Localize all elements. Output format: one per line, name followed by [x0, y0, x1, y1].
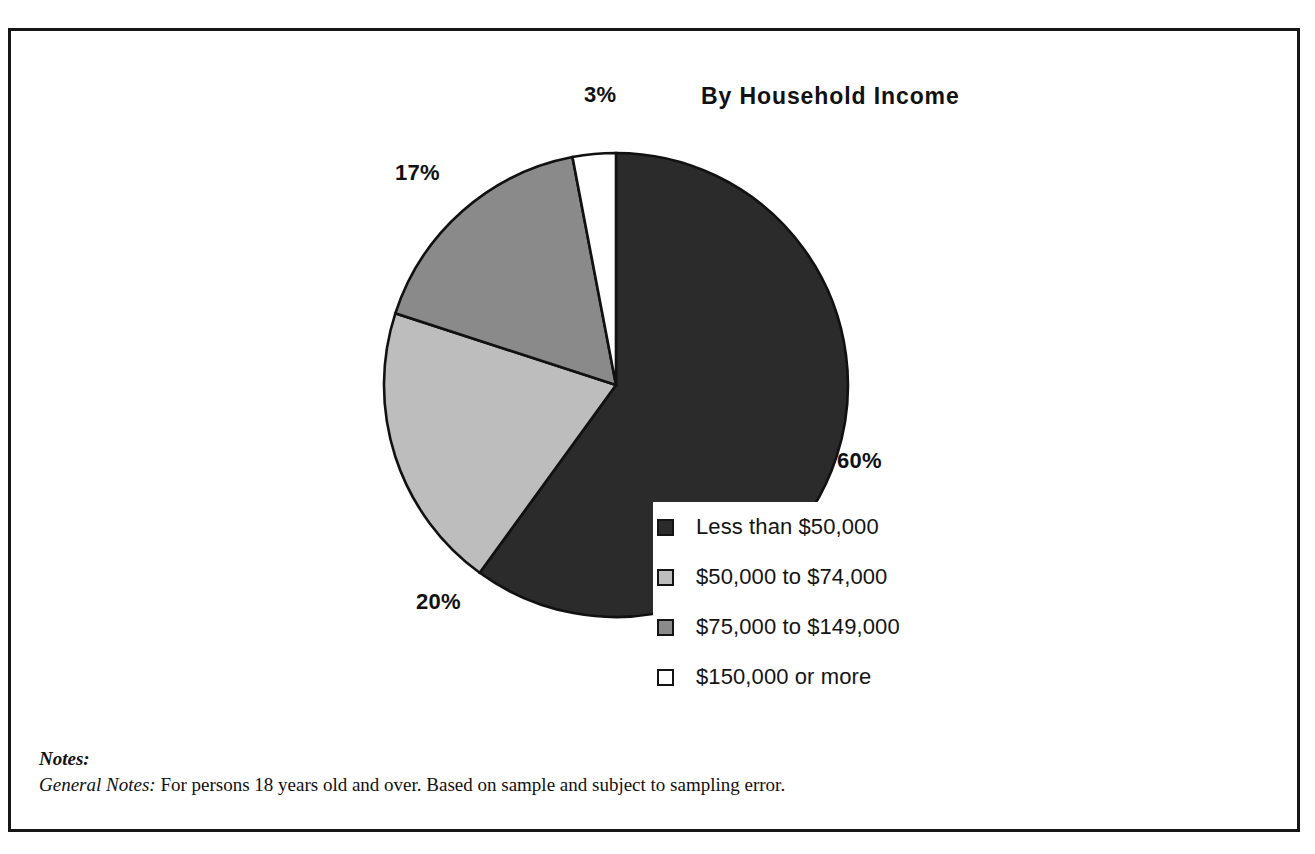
figure-frame: By Household Income 60% 20% 17% 3% Less … [8, 28, 1300, 832]
legend-item: $150,000 or more [653, 652, 983, 702]
pie-value-label-20: 20% [416, 589, 461, 615]
notes-heading: Notes: [39, 747, 1239, 771]
general-notes-text: For persons 18 years old and over. Based… [156, 774, 786, 795]
pie-value-label-17: 17% [395, 160, 440, 186]
legend-item-label: $150,000 or more [696, 664, 871, 690]
legend-item-label: $75,000 to $149,000 [696, 614, 900, 640]
clipped-source-line [0, 841, 1315, 854]
general-notes-line: General Notes: For persons 18 years old … [39, 773, 1239, 798]
legend-swatch-icon [657, 619, 674, 636]
chart-title: By Household Income [701, 83, 1081, 110]
legend-swatch-icon [657, 669, 674, 686]
legend-item: Less than $50,000 [653, 502, 983, 552]
legend-item-label: Less than $50,000 [696, 514, 879, 540]
legend-item: $75,000 to $149,000 [653, 602, 983, 652]
legend-swatch-icon [657, 519, 674, 536]
general-notes-label: General Notes: [39, 774, 156, 795]
chart-legend: Less than $50,000 $50,000 to $74,000 $75… [653, 502, 983, 704]
legend-item: $50,000 to $74,000 [653, 552, 983, 602]
chart-area: By Household Income 60% 20% 17% 3% Less … [11, 31, 1303, 835]
legend-swatch-icon [657, 569, 674, 586]
clipped-source-text [250, 841, 254, 849]
notes-block: Notes: General Notes: For persons 18 yea… [39, 747, 1239, 797]
pie-value-label-3: 3% [584, 82, 616, 108]
pie-value-label-60: 60% [837, 448, 882, 474]
legend-item-label: $50,000 to $74,000 [696, 564, 887, 590]
